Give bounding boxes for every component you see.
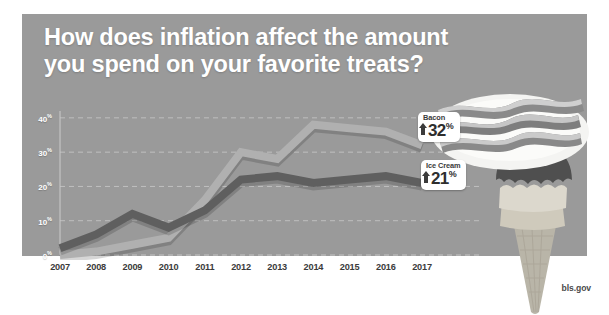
y-tick-label: 30% [22,147,52,158]
infographic-root: How does inflation affect the amount you… [0,0,609,315]
callout-bacon[interactable]: Bacon 32 % [418,112,460,142]
y-tick-label: 20% [22,181,52,192]
page-title: How does inflation affect the amount you… [44,24,514,79]
x-tick-label: 2008 [79,262,113,272]
y-tick-label: 10% [22,216,52,227]
callout-ice-cream-value: 21 [431,170,449,187]
headline-line-1: How does inflation affect the amount [44,24,514,51]
x-tick-label: 2014 [296,262,330,272]
x-tick-label: 2012 [224,262,258,272]
callout-bacon-label: Bacon [423,114,454,121]
callout-ice-cream-unit: % [449,170,457,179]
callout-bacon-value-row: 32 % [423,122,454,139]
x-tick-label: 2017 [405,262,439,272]
callout-ice-cream-value-row: 21 % [426,170,460,187]
x-tick-label: 2009 [115,262,149,272]
series-line-bacon [60,125,422,255]
callout-ice-cream-label: Ice Cream [426,162,460,169]
headline-line-2: you spend on your favorite treats? [44,51,514,78]
x-tick-label: 2007 [43,262,77,272]
y-tick-label: 40% [22,113,52,124]
callout-bacon-value: 32 [428,122,446,139]
callout-bacon-unit: % [446,122,454,131]
x-tick-label: 2013 [260,262,294,272]
x-tick-label: 2011 [188,262,222,272]
series-shadow-bacon [60,128,422,258]
y-tick-label: 0% [22,250,52,261]
x-tick-label: 2016 [369,262,403,272]
chart-series-layer [60,125,422,258]
callout-ice-cream[interactable]: Ice Cream 21 % [421,160,466,190]
x-tick-label: 2010 [152,262,186,272]
x-tick-label: 2015 [333,262,367,272]
series-shadow-ice-cream [60,179,422,251]
